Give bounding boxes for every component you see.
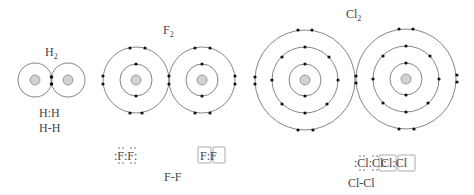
f2-bohr-model: [103, 47, 235, 113]
f-nucleus-right: [197, 75, 207, 85]
f2-title: F2: [163, 24, 174, 39]
h2-line-formula: H-H: [39, 122, 60, 134]
cl2-lewis-boxed: Cl:Cl: [381, 157, 407, 169]
h2-lewis-dots: H:H: [39, 107, 60, 119]
h-nucleus-right: [63, 75, 73, 85]
lewis-lone-pairs: [118, 147, 378, 171]
h-nucleus-left: [30, 75, 40, 85]
f2-line-formula: F-F: [164, 171, 181, 183]
cl2-line-formula: Cl-Cl: [348, 177, 375, 189]
electrons: [50, 27, 459, 131]
h2-title: H2: [45, 46, 58, 61]
cl-nucleus-right: [401, 74, 411, 84]
cl-nucleus-left: [300, 75, 310, 85]
nuclei: [30, 74, 411, 85]
h2-bohr-model: [18, 63, 85, 97]
cl2-title: Cl2: [346, 8, 361, 23]
cl2-bohr-model: [255, 29, 456, 130]
f2-lewis-dots: :F:F:: [114, 150, 137, 162]
f2-lewis-boxed: F:F: [200, 150, 217, 162]
covalent-bonding-diagram: H2 H:H H-H F2 :F:F: F:F F-F Cl2 :Cl:Cl: …: [0, 0, 474, 195]
f-nucleus-left: [131, 75, 141, 85]
